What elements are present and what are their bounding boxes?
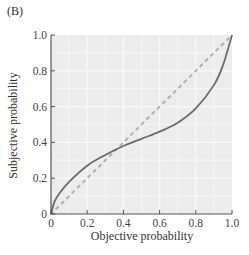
x-tick-label: 0.2 [80, 217, 95, 229]
y-tick-label: 0 [41, 208, 47, 220]
y-tick-label: 1.0 [33, 29, 48, 41]
x-tick-label: 0.8 [189, 217, 204, 229]
y-tick-label: 0.8 [33, 65, 48, 77]
y-tick-label: 0.4 [33, 136, 48, 148]
x-tick-label: 0.6 [152, 217, 167, 229]
x-tick-label: 0 [48, 217, 54, 229]
x-tick-label: 0.4 [116, 217, 131, 229]
y-tick-label: 0.6 [33, 101, 48, 113]
x-tick-label: 1.0 [225, 217, 240, 229]
chart-canvas: 00.20.40.60.81.000.20.40.60.81.0 [0, 0, 249, 255]
y-tick-label: 0.2 [33, 172, 48, 184]
